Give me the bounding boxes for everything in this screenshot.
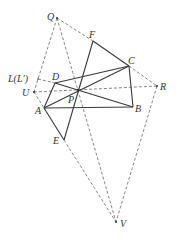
- line-FC: [93, 41, 129, 66]
- point-L: [37, 78, 39, 80]
- label-Q: Q: [47, 11, 55, 22]
- label-R: R: [159, 81, 166, 92]
- label-B: B: [135, 103, 141, 114]
- point-U: [33, 91, 35, 93]
- point-P: [77, 89, 79, 91]
- label-E: E: [52, 135, 59, 146]
- side-DA: [44, 83, 55, 108]
- label-C: C: [128, 55, 135, 66]
- line-QV: [57, 18, 116, 222]
- label-V: V: [120, 218, 128, 229]
- line-EV: [64, 140, 116, 222]
- diagonal-DB: [55, 83, 133, 107]
- side-CD: [55, 66, 129, 83]
- point-R: [156, 85, 158, 87]
- label-L: L(L′): [7, 73, 29, 85]
- side-AB: [44, 107, 133, 108]
- point-Q: [56, 17, 58, 19]
- dashed-lines: [34, 18, 157, 222]
- solid-lines: [44, 41, 133, 140]
- geometry-diagram: Q F C R L(L′) D U P B A E V: [0, 0, 176, 242]
- point-V: [115, 221, 117, 223]
- label-F: F: [88, 29, 96, 40]
- label-D: D: [51, 71, 60, 82]
- label-U: U: [22, 87, 30, 98]
- line-CR: [129, 66, 157, 86]
- side-BC: [129, 66, 133, 107]
- label-P: P: [67, 94, 74, 105]
- label-A: A: [34, 105, 42, 116]
